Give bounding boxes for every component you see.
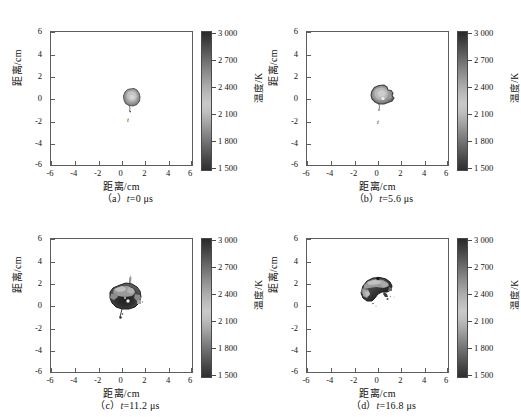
tracer-label-a: t: [127, 116, 129, 124]
colorbar-tick: 2 700: [474, 56, 493, 65]
x-tick: -2: [94, 169, 101, 178]
colorbar-title: 温度/K: [507, 265, 521, 325]
colorbar-tick: 1 500: [474, 164, 493, 173]
colorbar-c: 3 000 2 700 2 400 2 100 1 800 1 500 温度/K: [201, 238, 255, 378]
x-tick: 2: [398, 169, 402, 178]
colorbar-tick: 2 100: [474, 110, 493, 119]
colorbar-gradient: [457, 31, 468, 171]
y-tick: 6: [294, 27, 298, 36]
colorbar-d: 3 000 2 700 2 400 2 100 1 800 1 500 温度/K: [457, 238, 511, 378]
colorbar-tick: 1 800: [218, 344, 237, 353]
y-tick: 2: [294, 279, 298, 288]
plot-area-d: [306, 238, 449, 373]
y-tick: 2: [38, 72, 42, 81]
colorbar-tick: 2 400: [474, 83, 493, 92]
plot-area-b: t: [306, 31, 449, 166]
x-tick: -4: [70, 169, 77, 178]
y-tick: -2: [35, 323, 42, 332]
panel-caption-a: （a）t=0 μs: [0, 190, 255, 205]
x-tick: -4: [326, 169, 333, 178]
colorbar-tick: 2 700: [218, 263, 237, 272]
panel-c: 6 4 2 0 -2 -4 -6 -6 -4 -2 0 2 4 6 距离/cm …: [0, 207, 255, 415]
plot-area-a: t: [50, 31, 193, 166]
panel-caption-c: （c）t=11.2 μs: [0, 397, 255, 412]
y-tick: 6: [38, 234, 42, 243]
colorbar-tick: 3 000: [218, 29, 237, 38]
y-tick: 0: [294, 301, 298, 310]
temperature-blob-d: [351, 272, 405, 322]
x-tick: -6: [302, 376, 309, 385]
y-tick: -4: [35, 346, 42, 355]
y-tick: 6: [38, 27, 42, 36]
colorbar-tick: 3 000: [218, 236, 237, 245]
y-tick: -6: [35, 367, 42, 376]
colorbar-tick: 1 500: [474, 371, 493, 380]
x-tick: 0: [374, 169, 378, 178]
colorbar-tick: 2 700: [474, 263, 493, 272]
colorbar-tick: 1 800: [218, 137, 237, 146]
panel-d: 6 4 2 0 -2 -4 -6 -6 -4 -2 0 2 4 6 距离/cm …: [256, 207, 511, 415]
y-axis-title-b: 距离/cm: [265, 28, 280, 108]
temperature-blob-b: [367, 84, 401, 118]
panel-a: t 6 4 2 0 -2 -4 -6 -6 -4 -2 0 2 4 6 距离/c…: [0, 0, 255, 208]
colorbar-tick: 2 100: [218, 317, 237, 326]
x-tick: -6: [46, 169, 53, 178]
x-tick: 4: [422, 169, 426, 178]
caption-prefix: （c）: [95, 400, 120, 411]
y-tick-labels-d: 6 4 2 0 -2 -4 -6: [256, 238, 306, 373]
y-tick: -4: [291, 139, 298, 148]
caption-prefix: （b）: [354, 193, 380, 204]
x-tick: 4: [166, 376, 170, 385]
y-tick: 4: [294, 49, 298, 58]
caption-prefix: （d）: [351, 400, 377, 411]
x-tick: -2: [350, 376, 357, 385]
x-tick: -2: [350, 169, 357, 178]
colorbar-b: 3 000 2 700 2 400 2 100 1 800 1 500 温度/K: [457, 31, 511, 171]
x-tick: 2: [142, 169, 146, 178]
y-tick: -6: [35, 160, 42, 169]
y-axis-title-c: 距离/cm: [9, 235, 24, 315]
y-tick: 2: [38, 279, 42, 288]
colorbar-gradient: [201, 31, 212, 171]
x-tick: -4: [70, 376, 77, 385]
temperature-blob-c: [101, 274, 151, 330]
colorbar-tick: 1 500: [218, 371, 237, 380]
y-tick: 4: [294, 256, 298, 265]
y-tick: -2: [35, 116, 42, 125]
colorbar-a: 3 000 2 700 2 400 2 100 1 800 1 500 温度/K: [201, 31, 255, 171]
y-tick: -6: [291, 160, 298, 169]
y-tick: 2: [294, 72, 298, 81]
colorbar-title: 温度/K: [507, 58, 521, 118]
y-tick: 0: [38, 94, 42, 103]
caption-value: =11.2 μs: [123, 400, 159, 411]
y-axis-title-d: 距离/cm: [265, 235, 280, 315]
x-tick: 0: [374, 376, 378, 385]
y-tick: 4: [38, 49, 42, 58]
x-tick: 0: [118, 169, 122, 178]
panel-caption-b: （b）t=5.6 μs: [256, 190, 511, 205]
colorbar-tick: 2 700: [218, 56, 237, 65]
x-tick: -4: [326, 376, 333, 385]
y-tick: 0: [38, 301, 42, 310]
caption-prefix: （a）: [102, 193, 127, 204]
y-tick-labels-b: 6 4 2 0 -2 -4 -6: [256, 31, 306, 166]
x-tick: 6: [188, 376, 192, 385]
y-tick: -2: [291, 116, 298, 125]
y-tick: 0: [294, 94, 298, 103]
x-tick: 4: [422, 376, 426, 385]
y-tick: 6: [294, 234, 298, 243]
colorbar-tick: 2 400: [218, 83, 237, 92]
colorbar-tick: 1 800: [474, 137, 493, 146]
colorbar-tick: 3 000: [474, 236, 493, 245]
x-tick: -2: [94, 376, 101, 385]
x-tick: 0: [118, 376, 122, 385]
colorbar-tick: 2 400: [218, 290, 237, 299]
temperature-blob-a: [119, 87, 145, 117]
x-tick: 2: [142, 376, 146, 385]
caption-value: =5.6 μs: [382, 193, 413, 204]
x-tick: 4: [166, 169, 170, 178]
y-tick: -4: [35, 139, 42, 148]
x-tick: 2: [398, 376, 402, 385]
y-tick-labels-c: 6 4 2 0 -2 -4 -6: [0, 238, 50, 373]
